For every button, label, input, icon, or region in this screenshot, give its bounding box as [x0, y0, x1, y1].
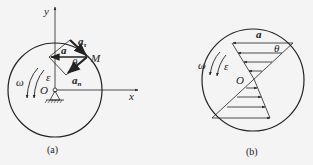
omega-label: ω	[16, 76, 24, 88]
origin-label: O	[40, 84, 48, 96]
diagram-canvas: y x aτ a M θ an ω ε O (a)	[0, 0, 313, 165]
lower-acceleration-arrows	[212, 88, 270, 118]
epsilon-label: ε	[224, 60, 229, 72]
figure-a: y x aτ a M θ an ω ε O (a)	[8, 5, 138, 156]
ground-hatch	[45, 100, 62, 103]
acceleration-label: a	[256, 28, 262, 40]
omega-label: ω	[198, 59, 206, 71]
angle-theta-label: θ	[72, 56, 78, 68]
tangential-label: aτ	[78, 35, 88, 49]
y-axis-label: y	[43, 5, 49, 17]
figure-a-caption: (a)	[47, 144, 58, 156]
origin-label: O	[236, 74, 244, 86]
upper-acceleration-arrows	[233, 43, 293, 71]
omega-arrow	[210, 52, 220, 75]
figure-b: a θ O ω ε (b)	[198, 28, 304, 158]
normal-label: an	[72, 74, 82, 88]
point-m-label: M	[90, 52, 101, 64]
normal-acceleration-vector	[68, 57, 87, 73]
angle-theta-label: θ	[274, 42, 280, 54]
acceleration-label: a	[61, 44, 67, 56]
figure-b-caption: (b)	[246, 146, 258, 158]
x-axis-label: x	[128, 90, 134, 102]
lower-envelope	[254, 79, 270, 118]
epsilon-label: ε	[46, 71, 51, 83]
